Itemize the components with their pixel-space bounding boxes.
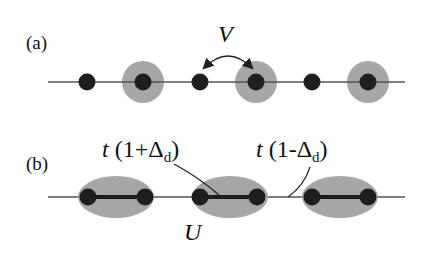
lattice-site (192, 74, 209, 91)
lattice-site (249, 189, 266, 206)
panel-a: (a) V (26, 21, 405, 103)
lattice-site (304, 74, 321, 91)
panel-b-label: (b) (26, 153, 48, 175)
lattice-site (360, 74, 377, 91)
lattice-site (137, 189, 154, 206)
lattice-site (304, 189, 321, 206)
strong-bond-label: t (1+Δd) (102, 136, 179, 165)
interaction-label-v: V (218, 21, 235, 47)
panel-b: (b) t (1+Δd) t (1-Δd) U (26, 136, 405, 245)
lattice-site (79, 74, 96, 91)
panel-a-label: (a) (26, 32, 47, 54)
onsite-label-u: U (184, 219, 203, 245)
lattice-site (360, 189, 377, 206)
lattice-site (192, 189, 209, 206)
lattice-site (248, 74, 265, 91)
lattice-site (135, 74, 152, 91)
weak-bond-label: t (1-Δd) (256, 136, 328, 165)
dimerized-chain-diagram: (a) V (b) (0, 0, 431, 256)
lattice-site (80, 189, 97, 206)
